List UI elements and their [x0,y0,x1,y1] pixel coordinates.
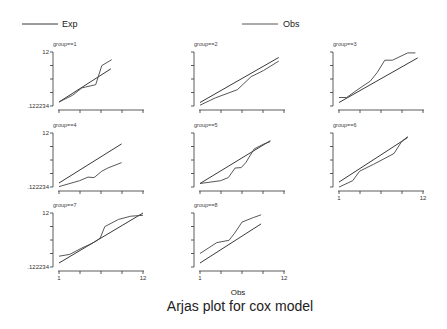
legend-obs-label: Obs [283,19,300,29]
x-tick-label-max: 12 [140,275,147,281]
series-exp-line [59,213,143,263]
y-tick-label-min: .122234 [27,264,49,270]
panel-title: group==4 [53,122,77,128]
x-tick-label-min: 1 [337,195,341,201]
panel-7: group==712.122234112 [27,202,147,281]
series-obs-line [339,53,415,98]
panel-title: group==5 [194,122,218,128]
panel-5: group==5 [191,122,285,194]
series-exp-line [339,138,408,183]
panel-2: group==2 [191,41,285,113]
y-tick-label-max: 12 [42,130,49,136]
y-tick-label-min: .122234 [27,184,49,190]
x-axis-label: Obs [231,288,246,297]
panel-8: group==8112 [191,202,288,281]
y-tick-label-min: .122234 [27,103,49,109]
series-obs-line [59,163,122,187]
panel-1: group==112.122234 [27,41,144,113]
panel-title: group==3 [333,41,357,47]
legend-exp-label: Exp [62,19,78,29]
panel-title: group==6 [333,122,357,128]
x-tick-label-max: 12 [420,195,427,201]
x-tick-label-min: 1 [57,275,61,281]
series-exp-line [200,58,279,103]
arjas-chart: Exp Obs group==112.122234group==2group==… [0,0,447,329]
x-tick-label-max: 12 [281,275,288,281]
series-exp-line [200,224,261,263]
panel-title: group==7 [53,202,77,208]
panel-4: group==412.122234 [27,122,144,194]
series-exp-line [339,58,418,103]
legend: Exp Obs [22,19,300,29]
x-tick-label-min: 1 [198,275,202,281]
panels: group==112.122234group==2group==3group==… [27,41,427,281]
series-obs-line [200,215,261,254]
series-exp-line [200,141,270,184]
series-obs-line [59,215,143,256]
panel-3: group==3 [330,41,424,113]
panel-title: group==1 [53,41,77,47]
panel-6: group==6112 [330,122,427,201]
y-tick-label-max: 12 [42,49,49,55]
series-obs-line [59,60,112,102]
panel-title: group==8 [194,202,218,208]
series-exp-line [59,69,111,102]
series-obs-line [200,61,279,105]
y-tick-label-max: 12 [42,210,49,216]
chart-title: Arjas plot for cox model [167,298,313,314]
panel-title: group==2 [194,41,218,47]
